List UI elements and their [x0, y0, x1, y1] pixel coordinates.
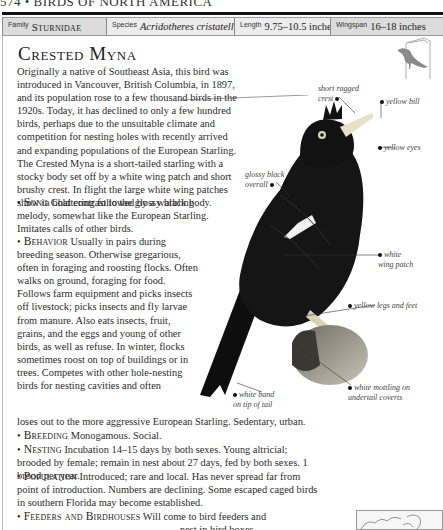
section-behavior: •Behavior Usually in pairs during breedi… [17, 235, 199, 392]
wingspan-label: Wingspan [336, 21, 367, 28]
section-song: •Song Chattering followed by a warbling … [17, 196, 215, 235]
species-value: Acridotheres cristatellus [140, 21, 234, 32]
pointer-dot [348, 304, 352, 308]
wingspan-value: 16–18 inches [370, 21, 426, 32]
page-title: Crested Myna [18, 43, 137, 65]
family-value: Sturnidae [32, 21, 82, 33]
range-map-outline [357, 511, 443, 530]
pointer-dot [378, 253, 382, 257]
species-cell: Species Acridotheres cristatellus [106, 18, 234, 35]
feeders-keyword: Feeders and Birdhouses [24, 510, 141, 522]
breeding-keyword: Breeding [24, 429, 68, 441]
feeders-text: Will come to bird feeders and [143, 511, 266, 522]
pointer-dot [233, 393, 237, 397]
species-label: Species [112, 21, 137, 28]
label-undertail: white mottling on undertail coverts [348, 383, 410, 402]
section-population: •Population Introduced; rare and local. … [17, 470, 319, 509]
info-bar: Family Sturnidae Species Acridotheres cr… [2, 17, 443, 36]
family-cell: Family Sturnidae [2, 18, 106, 35]
label-glossy: glossy black overall [245, 170, 284, 189]
section-feeders: •Feeders and Birdhouses Will come to bir… [17, 510, 357, 523]
label-bill: yellow bill [380, 97, 420, 107]
wingspan-cell: Wingspan 16–18 inches [330, 18, 443, 35]
breeding-text: Monogamous. Social. [71, 430, 162, 441]
behavior-text-tail: loses out to the more aggressive Europea… [17, 415, 347, 428]
length-label: Length [240, 21, 261, 28]
header-rule [2, 12, 443, 15]
song-keyword: Song [24, 196, 49, 208]
population-keyword: Population [24, 470, 77, 482]
range-map [356, 510, 443, 530]
section-breeding: •Breeding Monogamous. Social. [17, 429, 437, 442]
pointer-dot [335, 97, 339, 101]
label-wing-patch: white wing patch [378, 250, 413, 269]
family-label: Family [8, 21, 29, 28]
label-tail-band: white band on tip of tail [233, 390, 274, 409]
pointer-dot [378, 146, 382, 150]
pointer-dot [380, 100, 384, 104]
left-margin-rule [2, 36, 3, 530]
length-cell: Length 9.75–10.5 inches [234, 18, 330, 35]
length-value: 9.75–10.5 inches [264, 21, 330, 32]
behavior-keyword: Behavior [24, 235, 68, 247]
nesting-keyword: Nesting [24, 443, 62, 455]
feeders-text-tail: nest in bird boxes. [180, 523, 340, 530]
flight-pattern-icon [394, 35, 438, 81]
label-legs: yellow legs and feet [348, 301, 417, 311]
behavior-text: Usually in pairs during breeding season.… [17, 236, 198, 391]
pointer-dot [270, 183, 274, 187]
label-eyes: yellow eyes [378, 143, 421, 153]
pointer-dot [348, 386, 352, 390]
label-crest: short ragged crest [318, 84, 359, 103]
running-head: 574 • BIRDS OF NORTH AMERICA [0, 0, 212, 8]
